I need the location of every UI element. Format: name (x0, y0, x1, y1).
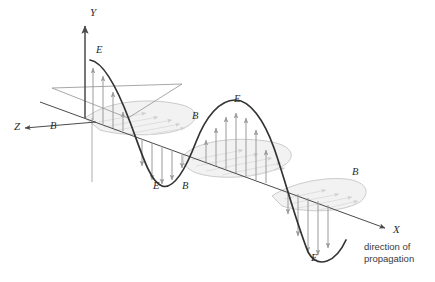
e-field-label-2: E (152, 180, 160, 191)
z-axis-label: Z (14, 120, 21, 132)
b-field-label-2: B (192, 110, 199, 121)
b-lobe-shape (85, 101, 195, 135)
em-wave-figure: Y X Z E E E E B B B B direction of propa… (0, 0, 435, 282)
b-field-label-1: B (50, 120, 57, 131)
b-lobe-1 (85, 101, 195, 135)
y-axis-label: Y (90, 6, 98, 18)
b-field-label-4: B (352, 166, 359, 177)
propagation-caption-line1: direction of (364, 241, 411, 252)
propagation-caption-line2: propagation (364, 253, 414, 264)
b-lobe-2 (183, 139, 291, 177)
em-wave-diagram: Y X Z E E E E B B B B direction of propa… (0, 0, 435, 282)
x-axis-label: X (392, 223, 401, 235)
z-axis-line (25, 122, 96, 128)
plane-diagonal-line (52, 88, 128, 118)
e-field-label-3: E (233, 93, 241, 104)
e-field-label-4: E (310, 252, 318, 263)
b-field-label-3: B (182, 180, 189, 191)
plane-edge-line (52, 84, 182, 88)
diagram-labels: Y X Z E E E E B B B B direction of propa… (14, 6, 414, 264)
e-field-label-1: E (95, 44, 103, 55)
